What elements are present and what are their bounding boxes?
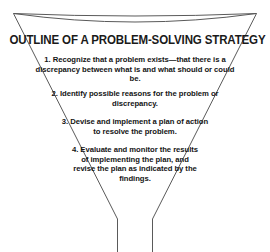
funnel-step-3: 3. Devise and implement a plan of action… [59, 117, 211, 136]
funnel-step-2: 2. Identify possible reasons for the pro… [46, 89, 225, 108]
funnel-text-layer: OUTLINE OF A PROBLEM-SOLVING STRATEGY 1.… [0, 0, 270, 252]
funnel-step-4: 4. Evaluate and monitor the results of i… [71, 145, 198, 183]
funnel-diagram-canvas: OUTLINE OF A PROBLEM-SOLVING STRATEGY 1.… [0, 0, 270, 252]
page-title: OUTLINE OF A PROBLEM-SOLVING STRATEGY [9, 33, 260, 47]
funnel-step-1: 1. Recognize that a problem exists—that … [32, 55, 237, 84]
